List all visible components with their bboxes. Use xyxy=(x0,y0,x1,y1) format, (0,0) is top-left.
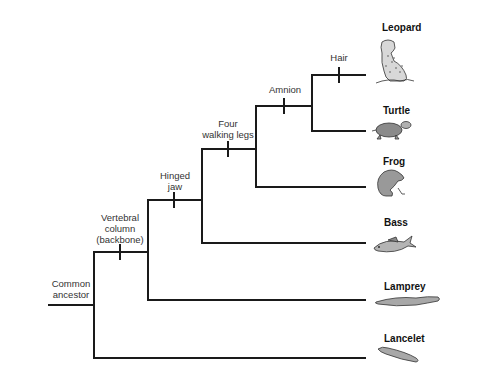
label-common-ancestor: Common ancestor xyxy=(46,278,96,300)
label-amnion: Amnion xyxy=(260,84,310,95)
label-line: Four xyxy=(198,118,258,129)
taxon-frog: Frog xyxy=(383,156,405,167)
frog-icon xyxy=(378,170,405,196)
label-line: column xyxy=(90,223,150,234)
cladogram xyxy=(0,0,478,387)
lancelet-icon xyxy=(378,347,418,362)
label-line: (backbone) xyxy=(90,234,150,245)
lamprey-icon xyxy=(375,297,439,306)
bass-icon xyxy=(374,236,416,252)
taxon-leopard: Leopard xyxy=(382,22,421,33)
label-line: jaw xyxy=(150,181,200,192)
label-line: walking legs xyxy=(198,129,258,140)
turtle-icon xyxy=(372,122,411,140)
taxon-turtle: Turtle xyxy=(383,105,410,116)
label-line: ancestor xyxy=(46,289,96,300)
leopard-icon xyxy=(376,40,414,83)
label-line: Amnion xyxy=(260,84,310,95)
label-four-walking-legs: Four walking legs xyxy=(198,118,258,140)
label-line: Vertebral xyxy=(90,212,150,223)
label-hair: Hair xyxy=(324,52,354,63)
taxon-bass: Bass xyxy=(384,217,408,228)
label-line: Hinged xyxy=(150,170,200,181)
taxon-lancelet: Lancelet xyxy=(384,333,425,344)
taxon-lamprey: Lamprey xyxy=(384,281,426,292)
label-line: Common xyxy=(46,278,96,289)
label-hinged-jaw: Hinged jaw xyxy=(150,170,200,192)
label-vertebral-column: Vertebral column (backbone) xyxy=(90,212,150,245)
label-line: Hair xyxy=(324,52,354,63)
